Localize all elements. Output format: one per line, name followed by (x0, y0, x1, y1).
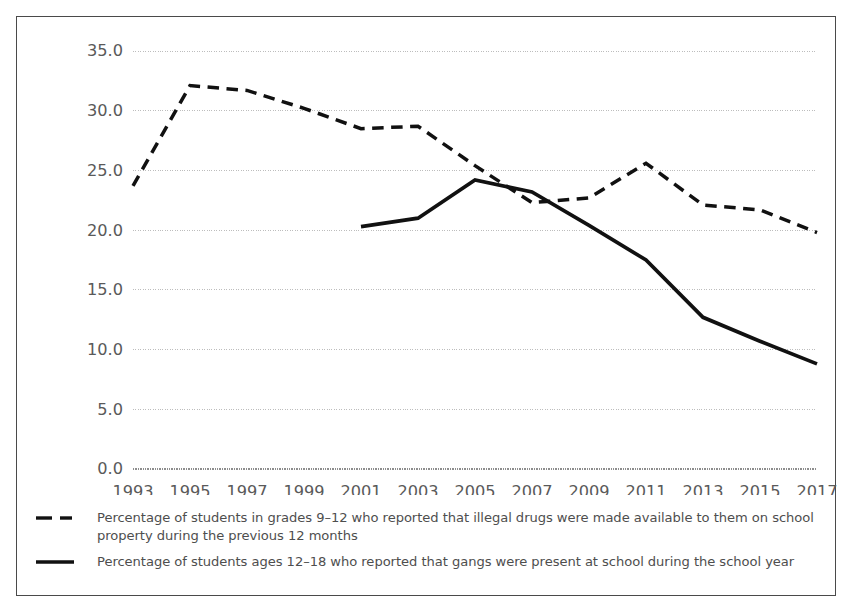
dashed-line-key (34, 509, 92, 527)
figure-container: 0.05.010.015.020.025.030.035.01993199519… (0, 0, 852, 612)
x-tick-label: 1993 (112, 482, 153, 495)
x-tick-label: 2003 (397, 482, 438, 495)
chart-outer-border: 0.05.010.015.020.025.030.035.01993199519… (16, 16, 836, 596)
line-chart-svg: 0.05.010.015.020.025.030.035.01993199519… (17, 17, 837, 495)
y-tick-label: 20.0 (87, 221, 123, 240)
y-tick-label: 0.0 (97, 459, 123, 478)
y-tick-label: 30.0 (87, 101, 123, 120)
x-tick-label: 2001 (340, 482, 381, 495)
x-tick-label: 1997 (226, 482, 267, 495)
legend-item-illegal-drugs: Percentage of students in grades 9–12 wh… (17, 509, 837, 544)
y-tick-label: 15.0 (87, 280, 123, 299)
x-tick-label: 2015 (739, 482, 780, 495)
y-tick-label: 10.0 (87, 340, 123, 359)
plot-area: 0.05.010.015.020.025.030.035.01993199519… (17, 17, 837, 495)
solid-line-key (34, 553, 92, 571)
chart-legend: Percentage of students in grades 9–12 wh… (17, 509, 837, 580)
x-tick-label: 1999 (283, 482, 324, 495)
y-tick-label: 25.0 (87, 161, 123, 180)
series-line-illegal-drugs (133, 86, 817, 233)
x-tick-label: 2011 (625, 482, 666, 495)
legend-item-gangs: Percentage of students ages 12–18 who re… (17, 553, 837, 571)
x-tick-label: 2005 (454, 482, 495, 495)
y-tick-label: 35.0 (87, 41, 123, 60)
x-tick-label: 1995 (169, 482, 210, 495)
legend-label-illegal-drugs: Percentage of students in grades 9–12 wh… (97, 509, 837, 544)
x-tick-label: 2007 (511, 482, 552, 495)
x-tick-label: 2017 (796, 482, 837, 495)
x-tick-label: 2013 (682, 482, 723, 495)
x-tick-label: 2009 (568, 482, 609, 495)
y-tick-label: 5.0 (97, 400, 123, 419)
legend-label-gangs: Percentage of students ages 12–18 who re… (97, 553, 837, 571)
